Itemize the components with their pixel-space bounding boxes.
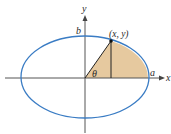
- point-label: (x, y): [109, 29, 129, 40]
- y-axis-label: y: [81, 3, 87, 14]
- point-marker: [109, 39, 113, 43]
- x-axis-label: x: [165, 72, 171, 83]
- y-axis-arrow-icon: [83, 15, 88, 21]
- angle-label: θ: [92, 68, 97, 79]
- semi-minor-label: b: [76, 25, 81, 36]
- x-axis-arrow-icon: [159, 76, 165, 81]
- semi-major-label: a: [150, 67, 155, 78]
- ellipse-diagram: y x b a (x, y) θ: [0, 0, 171, 134]
